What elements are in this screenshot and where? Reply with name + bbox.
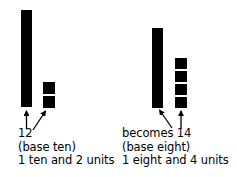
base-ten-number: 12 [18, 127, 114, 141]
eight-unit-square [175, 97, 187, 108]
base-ten-base-label: (base ten) [18, 141, 114, 155]
eight-unit-square [175, 84, 187, 95]
base-conversion-figure: 12 (base ten) 1 ten and 2 units becomes … [0, 0, 237, 177]
base-eight-base-label: (base eight) [122, 141, 229, 155]
base-eight-number: becomes 14 [122, 127, 229, 141]
eight-unit-square [175, 58, 187, 69]
eight-unit-square [175, 71, 187, 82]
ten-rod-bar [21, 10, 32, 107]
eight-rod-bar [152, 28, 163, 108]
base-eight-caption: becomes 14 (base eight) 1 eight and 4 un… [122, 127, 229, 168]
base-ten-decomposition: 1 ten and 2 units [18, 154, 114, 168]
ten-unit-square [43, 82, 55, 94]
ten-unit-square [43, 96, 55, 108]
base-eight-decomposition: 1 eight and 4 units [122, 154, 229, 168]
base-ten-caption: 12 (base ten) 1 ten and 2 units [18, 127, 114, 168]
